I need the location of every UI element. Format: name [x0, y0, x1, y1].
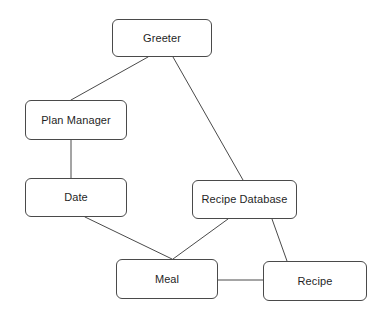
- node-layer: GreeterPlan ManagerDateRecipe DatabaseMe…: [0, 0, 385, 315]
- node-label-recipe_database: Recipe Database: [202, 193, 288, 206]
- node-plan_manager[interactable]: Plan Manager: [25, 100, 127, 140]
- node-label-meal: Meal: [155, 273, 179, 286]
- node-greeter[interactable]: Greeter: [112, 19, 212, 57]
- node-meal[interactable]: Meal: [116, 259, 218, 299]
- node-recipe_database[interactable]: Recipe Database: [192, 180, 297, 219]
- node-label-date: Date: [64, 191, 88, 204]
- node-label-plan_manager: Plan Manager: [41, 114, 111, 127]
- diagram-canvas: GreeterPlan ManagerDateRecipe DatabaseMe…: [0, 0, 385, 315]
- node-date[interactable]: Date: [25, 178, 127, 217]
- node-label-greeter: Greeter: [143, 32, 181, 45]
- node-label-recipe: Recipe: [298, 275, 333, 288]
- node-recipe[interactable]: Recipe: [263, 261, 367, 301]
